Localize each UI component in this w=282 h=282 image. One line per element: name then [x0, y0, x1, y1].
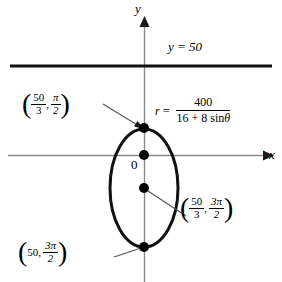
polar-equation-label: r = 400 16 + 8 sinθ: [155, 96, 230, 126]
equation-equals: =: [160, 105, 173, 117]
directrix-label: y = 50: [168, 40, 202, 53]
y-axis-arrowhead: [140, 16, 150, 27]
point-bottom-open-paren: (: [18, 241, 27, 264]
point-focus-open-paren: (: [180, 197, 189, 220]
point-focus-r-denominator: 3: [189, 208, 204, 221]
y-axis-label: y: [135, 2, 141, 15]
point-focus-theta-fraction: 3π 2: [209, 196, 224, 220]
point-bottom-theta-fraction: 3π 2: [43, 240, 58, 264]
directrix-label-text: y = 50: [168, 39, 202, 54]
point-top-r-denominator: 3: [31, 104, 46, 117]
point-focus-r-fraction: 50 3: [189, 196, 204, 220]
point-top-r-fraction: 50 3: [31, 92, 46, 116]
leader-line-top: [103, 104, 139, 126]
point-top-theta-numerator: π: [51, 92, 61, 104]
polar-conic-figure: y x y = 50 0 r = 400 16 + 8 sinθ ( 50 3 …: [0, 0, 282, 282]
point-focus-theta-numerator: 3π: [209, 196, 224, 208]
equation-denominator-lead: 16 + 8 sin: [176, 111, 224, 125]
origin-label: 0: [131, 158, 138, 171]
leader-line-bottom: [114, 248, 141, 257]
equation-fraction: 400 16 + 8 sinθ: [176, 96, 230, 126]
point-dot-focus: [139, 183, 149, 193]
point-bottom-theta-denominator: 2: [43, 252, 58, 265]
point-top-open-paren: (: [22, 93, 31, 116]
point-dot-top: [139, 123, 149, 133]
equation-numerator: 400: [176, 96, 230, 110]
point-label-second-focus: ( 50 3 , 3π 2 ): [180, 196, 233, 220]
point-bottom-r-value: 50: [27, 247, 38, 258]
point-label-top-vertex: ( 50 3 , π 2 ): [22, 92, 70, 116]
point-dot-origin: [139, 150, 149, 160]
point-focus-theta-denominator: 2: [209, 208, 224, 221]
point-top-close-paren: ): [61, 93, 70, 116]
equation-denominator: 16 + 8 sinθ: [176, 110, 230, 126]
point-focus-close-paren: ): [224, 197, 233, 220]
point-top-theta-denominator: 2: [51, 104, 61, 117]
point-top-r-numerator: 50: [31, 92, 46, 104]
point-bottom-close-paren: ): [58, 241, 67, 264]
x-axis-label: x: [269, 148, 275, 161]
point-bottom-theta-numerator: 3π: [43, 240, 58, 252]
point-top-theta-fraction: π 2: [51, 92, 61, 116]
point-focus-r-numerator: 50: [189, 196, 204, 208]
point-dot-bottom: [139, 242, 149, 252]
equation-theta: θ: [224, 111, 230, 125]
point-label-bottom-vertex: ( 50 , 3π 2 ): [18, 240, 67, 264]
